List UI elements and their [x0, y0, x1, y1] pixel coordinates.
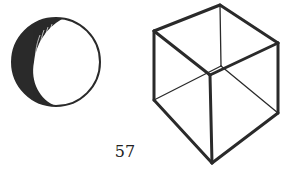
illustration — [0, 0, 292, 172]
wireframe-cube — [154, 5, 278, 163]
shaded-sphere — [12, 18, 100, 106]
page-number: 57 — [110, 142, 140, 161]
